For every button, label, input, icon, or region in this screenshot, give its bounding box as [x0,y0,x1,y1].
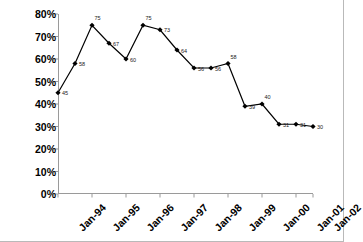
data-point-label: 67 [113,42,119,48]
data-point-label: 45 [62,91,68,97]
data-point-label: 64 [181,49,187,55]
data-point-label: 58 [231,55,237,61]
data-point-label: 40 [265,95,271,101]
data-point-label: 30 [317,125,323,131]
data-point-label: 56 [198,67,204,73]
data-point-label: 73 [164,28,170,34]
data-point-label: 39 [249,105,255,111]
data-point-label: 58 [79,62,85,68]
data-point-label: 56 [215,67,221,73]
data-point-label: 31 [283,123,289,129]
data-point-label: 75 [95,16,101,22]
data-point-label: 31 [300,123,306,129]
data-point-label: 60 [130,58,136,64]
data-point-label: 75 [146,16,152,22]
